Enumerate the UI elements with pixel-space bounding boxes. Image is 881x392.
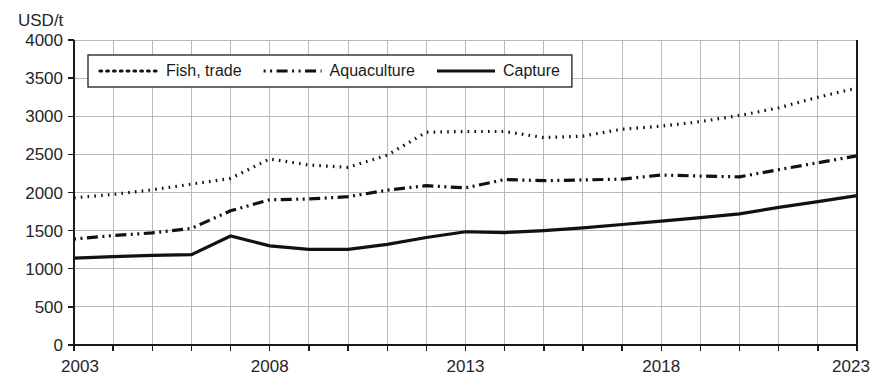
y-tick-label: 3000 <box>25 107 63 126</box>
y-tick-label: 1000 <box>25 260 63 279</box>
x-tick-label: 2013 <box>447 357 485 376</box>
chart-legend: Fish, tradeAquacultureCapture <box>88 55 572 87</box>
x-axis-ticks <box>74 345 857 351</box>
x-tick-label: 2003 <box>61 357 99 376</box>
legend-label: Capture <box>503 62 560 79</box>
y-axis-tick-labels: 05001000150020002500300035004000 <box>25 31 63 355</box>
y-tick-label: 500 <box>35 298 63 317</box>
x-tick-label: 2023 <box>832 357 870 376</box>
legend-label: Fish, trade <box>166 62 242 79</box>
y-axis-ticks <box>68 40 74 345</box>
line-chart: 05001000150020002500300035004000 2003200… <box>0 0 881 392</box>
x-axis-tick-labels: 20032008201320182023 <box>61 357 870 376</box>
x-tick-label: 2018 <box>642 357 680 376</box>
y-tick-label: 3500 <box>25 69 63 88</box>
y-tick-label: 0 <box>54 336 63 355</box>
y-axis-unit-label: USD/t <box>18 11 64 30</box>
y-tick-label: 2500 <box>25 145 63 164</box>
chart-container: 05001000150020002500300035004000 2003200… <box>0 0 881 392</box>
x-tick-label: 2008 <box>251 357 289 376</box>
y-tick-label: 2000 <box>25 184 63 203</box>
y-tick-label: 1500 <box>25 222 63 241</box>
y-tick-label: 4000 <box>25 31 63 50</box>
legend-label: Aquaculture <box>330 62 415 79</box>
